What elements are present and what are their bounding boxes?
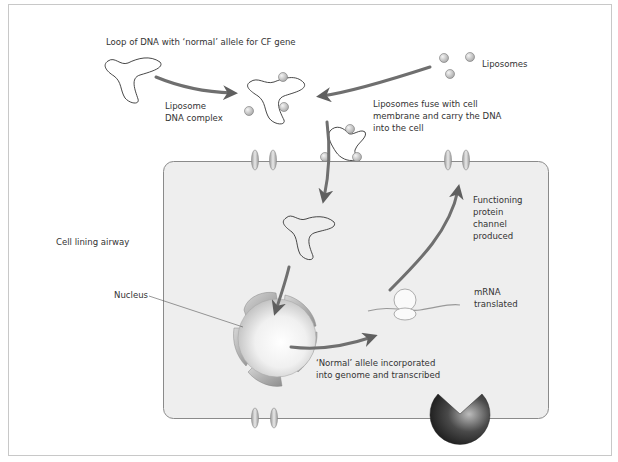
label-nucleus: Nucleus (114, 289, 148, 301)
label-membrane-fusion: Liposomes fuse with cell membrane and ca… (373, 98, 501, 134)
label-liposomes: Liposomes (482, 58, 528, 70)
label-liposome-dna-complex: Liposome DNA complex (165, 100, 223, 124)
diagram-canvas: Loop of DNA with ‘normal’ allele for CF … (0, 0, 618, 462)
label-dna-loop: Loop of DNA with ‘normal’ allele for CF … (106, 36, 296, 48)
label-allele-incorporated: ‘Normal’ allele incorporated into genome… (316, 357, 440, 381)
label-cell-lining-airway: Cell lining airway (56, 236, 129, 248)
label-mrna-translated: mRNA translated (474, 286, 518, 310)
label-functioning-channel: Functioning protein channel produced (473, 194, 523, 242)
